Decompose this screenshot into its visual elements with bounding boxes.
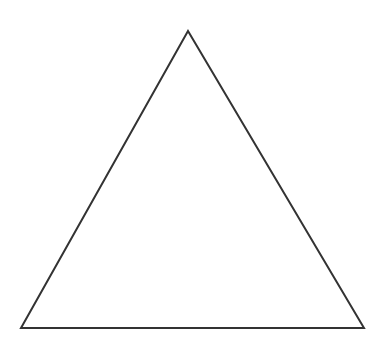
diagram-canvas <box>0 0 384 349</box>
triangle-figure <box>0 0 384 349</box>
triangle-outline <box>21 31 364 328</box>
